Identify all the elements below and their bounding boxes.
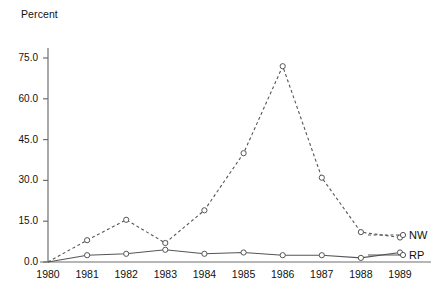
series-point-nw — [85, 238, 90, 243]
series-line-rp — [48, 250, 400, 262]
y-tick-label: 30.0 — [0, 174, 38, 185]
series-point-rp — [358, 255, 363, 260]
series-point-nw — [280, 64, 285, 69]
y-tick-label: 75.0 — [0, 52, 38, 63]
legend-label-rp: RP — [409, 249, 424, 261]
series-point-rp — [280, 253, 285, 258]
series-point-rp — [85, 253, 90, 258]
series-point-rp — [319, 253, 324, 258]
chart-container: Percent 0.015.030.045.060.075.0 19801981… — [0, 0, 435, 303]
series-point-nw — [202, 208, 207, 213]
y-tick-label: 45.0 — [0, 134, 38, 145]
series-point-nw — [163, 240, 168, 245]
series-point-nw — [358, 230, 363, 235]
series-point-rp — [241, 250, 246, 255]
series-point-nw — [241, 151, 246, 156]
legend-marker-rp — [400, 252, 405, 257]
legend-label-nw: NW — [409, 229, 427, 241]
legend-marker-nw — [400, 232, 405, 237]
series-point-rp — [124, 251, 129, 256]
series-point-nw — [319, 175, 324, 180]
y-tick-label: 15.0 — [0, 215, 38, 226]
series-point-rp — [163, 247, 168, 252]
chart-plot-area — [0, 0, 435, 303]
y-tick-label: 0.0 — [0, 256, 38, 267]
x-tick-label: 1989 — [375, 268, 425, 280]
y-tick-label: 60.0 — [0, 93, 38, 104]
series-point-rp — [202, 251, 207, 256]
series-point-nw — [124, 217, 129, 222]
series-line-nw — [48, 66, 400, 262]
